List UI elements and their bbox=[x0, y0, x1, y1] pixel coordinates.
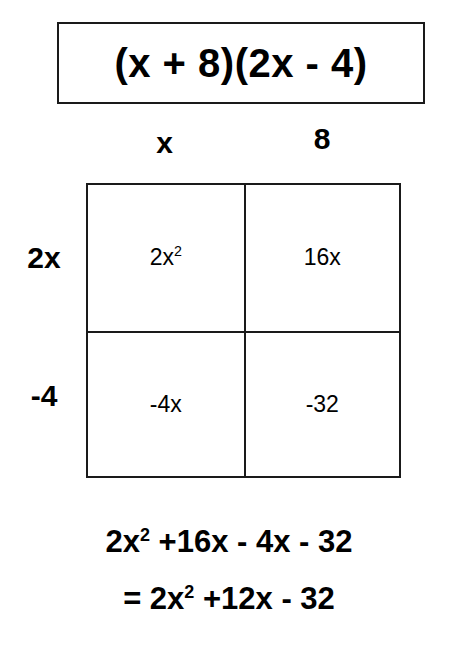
grid-cell-base-r0c0: 2x bbox=[150, 244, 174, 270]
column-header-1: 8 bbox=[243, 124, 401, 154]
grid-cell-text-r0c1: 16x bbox=[304, 246, 341, 269]
result-suffix-1: +12x - 32 bbox=[194, 581, 334, 616]
result-prefix-1: = 2x bbox=[123, 581, 184, 616]
grid-cell-r0c0: 2x2 bbox=[88, 185, 244, 331]
grid-cell-text-r1c1: -32 bbox=[306, 393, 339, 416]
expression-box: (x + 8)(2x - 4) bbox=[57, 22, 425, 104]
result-line-expanded: 2x2 +16x - 4x - 32 bbox=[0, 526, 458, 557]
grid-cell-r1c0: -4x bbox=[88, 331, 244, 477]
area-model-grid: 2x2 16x -4x -32 bbox=[86, 183, 401, 478]
expression-text: (x + 8)(2x - 4) bbox=[114, 43, 367, 83]
grid-cell-r0c1: 16x bbox=[244, 185, 400, 331]
result-exponent-0: 2 bbox=[140, 525, 150, 545]
grid-cell-text-r1c0: -4x bbox=[150, 393, 182, 416]
column-header-0: x bbox=[86, 128, 243, 158]
grid-cell-base-r1c1: -32 bbox=[306, 391, 339, 417]
grid-cell-base-r0c1: 16x bbox=[304, 244, 341, 270]
grid-cell-exponent-r0c0: 2 bbox=[174, 243, 182, 259]
grid-cell-base-r1c0: -4x bbox=[150, 391, 182, 417]
result-line-simplified: = 2x2 +12x - 32 bbox=[0, 583, 458, 614]
row-header-0: 2x bbox=[6, 243, 82, 273]
result-prefix-0: 2x bbox=[106, 524, 140, 559]
grid-cell-r1c1: -32 bbox=[244, 331, 400, 477]
grid-cell-text-r0c0: 2x2 bbox=[150, 246, 182, 269]
result-exponent-1: 2 bbox=[184, 582, 194, 602]
row-header-1: -4 bbox=[6, 381, 82, 411]
result-suffix-0: +16x - 4x - 32 bbox=[150, 524, 353, 559]
